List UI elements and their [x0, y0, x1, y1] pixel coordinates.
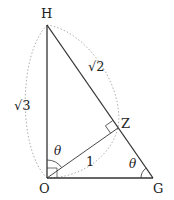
vertex-label-H: H: [41, 6, 52, 21]
angle-arc-G: [141, 168, 146, 178]
right-angle-marker-Z: [105, 121, 112, 134]
edge-label-OZ: 1: [86, 154, 94, 169]
angle-arc-O: [47, 160, 62, 168]
vertex-label-G: G: [153, 181, 163, 196]
side-HG: [47, 25, 153, 178]
angle-label-O: θ: [54, 144, 62, 158]
triangle-diagram: H O G Z √3 √2 1 θ θ: [0, 0, 174, 200]
angle-label-G: θ: [129, 157, 137, 171]
edge-label-HZ: √2: [88, 59, 105, 74]
vertex-label-O: O: [39, 181, 50, 196]
edge-label-OH: √3: [14, 98, 31, 113]
vertex-label-Z: Z: [121, 116, 130, 131]
